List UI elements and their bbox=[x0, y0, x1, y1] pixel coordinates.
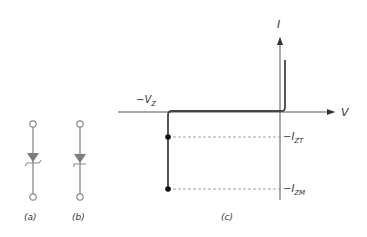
zener-diagram: I V −VZ −IZT −IZM (a) (b) (c) bbox=[0, 0, 367, 237]
panel-c-label: (c) bbox=[221, 212, 233, 222]
terminal-icon bbox=[77, 194, 83, 200]
panel-a-label: (a) bbox=[24, 212, 37, 222]
zener-symbol-a bbox=[25, 121, 41, 200]
terminal-icon bbox=[30, 121, 36, 127]
terminal-icon bbox=[77, 121, 83, 127]
diode-triangle-icon bbox=[27, 153, 39, 162]
v-axis-label: V bbox=[341, 106, 350, 119]
i-axis-label: I bbox=[277, 18, 280, 31]
diode-triangle-icon bbox=[74, 154, 86, 163]
izm-label: −IZM bbox=[283, 183, 305, 197]
vz-label: −VZ bbox=[136, 94, 156, 108]
iv-curve bbox=[168, 60, 285, 189]
panel-b-label: (b) bbox=[72, 212, 85, 222]
izt-label: −IZT bbox=[283, 131, 304, 145]
izm-point bbox=[165, 186, 171, 192]
iv-axes bbox=[118, 38, 334, 200]
zener-symbol-b bbox=[74, 121, 86, 200]
izt-point bbox=[165, 134, 171, 140]
terminal-icon bbox=[30, 194, 36, 200]
